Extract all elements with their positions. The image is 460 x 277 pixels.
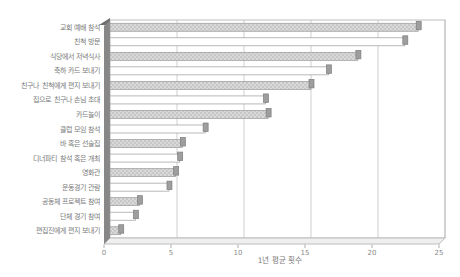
category-label: 카드놀이: [76, 110, 100, 119]
bar: [110, 125, 205, 133]
bar: [110, 96, 265, 104]
category-label: 편집진에게 편지 보내기: [36, 226, 100, 235]
category-label: 공동체 프로젝트 참여: [42, 197, 100, 206]
bar: [110, 140, 182, 148]
bar: [110, 169, 176, 177]
category-label: 디너파티 참석 혹은 개최: [33, 154, 100, 163]
x-axis-title: 1년 평균 횟수: [258, 255, 303, 265]
bar: [110, 81, 311, 89]
category-label: 클럽 모임 참석: [60, 125, 100, 134]
bar: [110, 38, 405, 46]
plot-floor: [104, 238, 445, 244]
bar-end-cap: [309, 79, 314, 88]
category-label: 바 혹은 선술집: [60, 139, 100, 148]
tick-label: 20: [368, 249, 377, 257]
bar-end-cap: [263, 94, 268, 103]
category-label: 영화관: [82, 168, 101, 177]
bar-end-cap: [180, 138, 185, 147]
bar: [110, 52, 358, 60]
bar: [110, 154, 180, 162]
bar: [110, 198, 139, 206]
bar: [110, 183, 169, 191]
tick-label: 10: [234, 249, 243, 257]
category-label: 식당에서 저녁식사: [50, 52, 101, 61]
tick-label: 5: [169, 249, 173, 257]
bar-end-cap: [356, 50, 361, 59]
tick-label: 25: [435, 249, 444, 257]
bar: [110, 67, 328, 75]
bar-end-cap: [167, 181, 172, 190]
category-label: 친구나 친척에게 편지 보내기: [21, 81, 100, 90]
bar: [110, 212, 135, 220]
category-label: 단체 경기 참여: [60, 212, 100, 221]
bar-end-cap: [203, 123, 208, 132]
category-labels: 교회 예배 참석친척 방문식당에서 저녁식사축하 카드 보내기친구나 친척에게 …: [21, 23, 101, 235]
left-wall: [104, 20, 110, 244]
bar-end-cap: [137, 196, 142, 205]
category-label: 집으로 친구나 손님 초대: [33, 95, 100, 104]
bar-end-cap: [326, 65, 331, 74]
bar-end-cap: [416, 21, 421, 30]
category-label: 교회 예배 참석: [60, 23, 100, 32]
category-label: 친척 방문: [74, 37, 101, 46]
tick-label: 0: [102, 249, 106, 257]
bar-end-cap: [174, 167, 179, 176]
x-axis-tick-marks: [104, 245, 439, 249]
bar: [110, 110, 268, 118]
bar-chart-canvas: 교회 예배 참석친척 방문식당에서 저녁식사축하 카드 보내기친구나 친척에게 …: [0, 0, 460, 277]
bar-end-cap: [403, 36, 408, 45]
social-activities-frequency-chart: 교회 예배 참석친척 방문식당에서 저녁식사축하 카드 보내기친구나 친척에게 …: [0, 0, 460, 277]
bar-end-cap: [133, 210, 138, 219]
bar-end-cap: [119, 225, 124, 234]
category-label: 운동경기 관람: [62, 183, 101, 192]
bar: [110, 23, 418, 31]
category-label: 축하 카드 보내기: [54, 66, 100, 75]
bar-end-cap: [178, 152, 183, 161]
bar-end-cap: [266, 108, 271, 117]
